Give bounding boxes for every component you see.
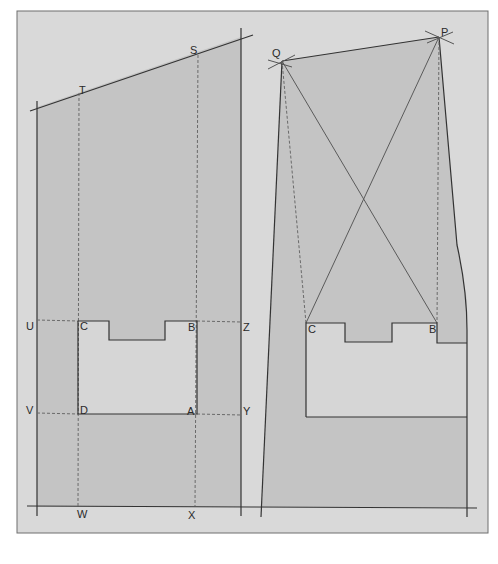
label-T: T <box>79 84 86 96</box>
label-V: V <box>26 404 34 416</box>
left-figure: T S U C B Z V D A Y W X <box>26 28 253 521</box>
label-D: D <box>80 404 88 416</box>
label-C: C <box>80 320 88 332</box>
label-U: U <box>26 320 34 332</box>
right-shape-fill <box>262 37 467 507</box>
label-B: B <box>188 321 195 333</box>
label-Y: Y <box>243 405 251 417</box>
label-W: W <box>77 508 88 520</box>
left-shape-fill <box>37 37 241 507</box>
label-B-right: B <box>429 323 436 335</box>
label-C-right: C <box>308 323 316 335</box>
label-Z: Z <box>243 321 250 333</box>
right-figure: Q P C B <box>252 26 477 517</box>
label-Q: Q <box>272 47 281 59</box>
label-X: X <box>188 509 196 521</box>
pattern-construction-diagram: T S U C B Z V D A Y W X <box>0 0 498 564</box>
label-P: P <box>441 26 448 38</box>
label-A: A <box>187 405 195 417</box>
label-S: S <box>190 44 197 56</box>
